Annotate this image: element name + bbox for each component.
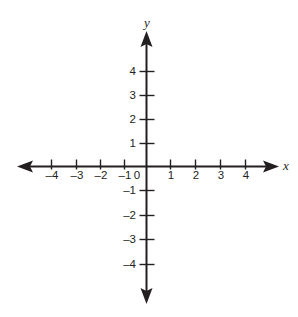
coordinate-plane-figure: y x 0 –4 –3 –2 –1 1 2 3 4 4 3 2 1 –1 –2 …: [0, 0, 298, 317]
y-tick-label--4: –4: [115, 258, 136, 270]
x-tick-label-4: 4: [238, 169, 254, 181]
x-tick-label-3: 3: [213, 169, 229, 181]
y-tick-label--3: –3: [115, 233, 136, 245]
x-tick-label--2: –2: [92, 169, 110, 181]
x-tick-label-1: 1: [163, 169, 179, 181]
x-tick-label--4: –4: [43, 169, 61, 181]
y-tick-label--1: –1: [115, 184, 136, 196]
y-tick-label-4: 4: [120, 65, 136, 77]
x-tick-label--1: –1: [116, 169, 134, 181]
x-tick-label-2: 2: [188, 169, 204, 181]
x-tick-label--3: –3: [68, 169, 86, 181]
y-tick-label-2: 2: [120, 113, 136, 125]
x-axis-label: x: [283, 159, 289, 172]
y-tick-label-1: 1: [120, 137, 136, 149]
axes-drawing: [0, 0, 298, 317]
y-tick-label--2: –2: [115, 209, 136, 221]
y-tick-label-3: 3: [120, 89, 136, 101]
y-axis-label: y: [144, 16, 150, 29]
